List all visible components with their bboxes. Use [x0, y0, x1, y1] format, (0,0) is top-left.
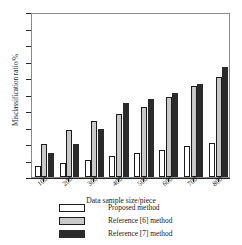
white-swatch	[59, 204, 85, 212]
bar	[91, 121, 97, 177]
plot-area	[31, 13, 230, 178]
bar	[166, 97, 172, 177]
chart-legend: Proposed methodReference [6] methodRefer…	[59, 203, 219, 242]
legend-item-label: Reference [6] method	[108, 216, 172, 226]
bar-chart-figure: Misclassification ratio/% 02468101214161…	[0, 0, 242, 245]
bar	[209, 143, 215, 177]
bar	[148, 99, 154, 177]
black-swatch	[59, 230, 85, 238]
bar	[116, 114, 122, 177]
legend-item: Proposed method	[59, 203, 219, 215]
bar	[184, 146, 190, 177]
legend-item: Reference [6] method	[59, 216, 219, 228]
bar	[172, 93, 178, 177]
bar	[159, 150, 165, 177]
bar	[123, 103, 129, 177]
bar	[134, 153, 140, 177]
bar	[98, 129, 104, 177]
x-axis-line	[31, 178, 230, 179]
bar	[48, 153, 54, 177]
bar	[222, 67, 228, 177]
bar	[35, 166, 41, 177]
gray-swatch	[59, 217, 85, 225]
bar	[85, 160, 91, 177]
bars-container	[32, 14, 229, 177]
bar	[73, 144, 79, 177]
bar	[60, 163, 66, 177]
bar	[109, 156, 115, 177]
bar	[41, 144, 47, 177]
legend-item-label: Proposed method	[108, 203, 160, 213]
bar	[191, 86, 197, 177]
bar	[66, 130, 72, 177]
bar	[216, 77, 222, 177]
legend-item: Reference [7] method	[59, 229, 219, 241]
legend-item-label: Reference [7] method	[108, 229, 172, 239]
bar	[141, 107, 147, 177]
bar	[197, 84, 203, 177]
y-axis-title: Misclassification ratio/%	[12, 35, 20, 145]
